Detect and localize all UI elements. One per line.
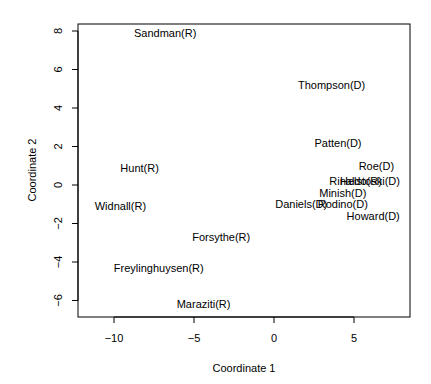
point-label: Freylinghuysen(R): [114, 262, 204, 274]
point-label: Howard(D): [347, 210, 400, 222]
y-tick-label: 6: [52, 66, 64, 72]
y-tick-label: 4: [52, 105, 64, 111]
point-label: Hunt(R): [120, 162, 159, 174]
scatter-chart: −10−505 −6−4−202468 Sandman(R)Thompson(D…: [0, 0, 431, 384]
point-labels: Sandman(R)Thompson(D)Patten(D)Roe(D)Rina…: [95, 27, 400, 310]
x-axis-label: Coordinate 1: [213, 362, 276, 374]
point-label: Helstoski(D): [340, 175, 400, 187]
y-tick-label: −2: [52, 217, 64, 230]
x-tick-label: 5: [351, 332, 357, 344]
point-label: Thompson(D): [298, 79, 365, 91]
point-label: Roe(D): [359, 160, 394, 172]
point-label: Minish(D): [319, 187, 366, 199]
y-tick-label: 2: [52, 143, 64, 149]
x-axis: −10−505: [105, 317, 357, 344]
point-label: Forsythe(R): [192, 231, 250, 243]
point-label: Maraziti(R): [177, 298, 231, 310]
point-label: Rodino(D): [318, 198, 368, 210]
y-tick-label: 0: [52, 182, 64, 188]
point-label: Widnall(R): [95, 200, 146, 212]
y-tick-label: −4: [52, 256, 64, 269]
y-tick-label: 8: [52, 28, 64, 34]
x-tick-label: 0: [271, 332, 277, 344]
x-tick-label: −10: [105, 332, 124, 344]
x-tick-label: −5: [188, 332, 201, 344]
y-axis-label: Coordinate 2: [26, 139, 38, 202]
y-axis: −6−4−202468: [52, 28, 78, 307]
y-tick-label: −6: [52, 294, 64, 307]
point-label: Patten(D): [314, 137, 361, 149]
point-label: Sandman(R): [134, 27, 196, 39]
